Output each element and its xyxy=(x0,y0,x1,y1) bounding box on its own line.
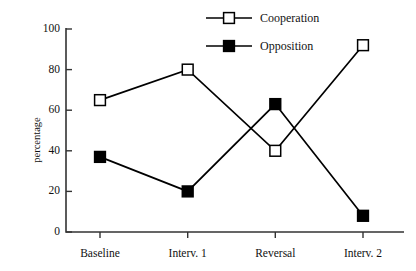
opposition-point-baseline xyxy=(95,152,106,163)
cooperation-point-reversal xyxy=(270,145,281,156)
y-tick-label-80: 80 xyxy=(30,64,60,76)
series-opposition xyxy=(95,99,369,222)
axis-spines xyxy=(66,28,404,232)
plot-area xyxy=(0,0,416,271)
cooperation-point-interv-1 xyxy=(182,64,193,75)
y-tick-label-0: 0 xyxy=(30,226,60,238)
line-chart: percentage 100 80 60 40 20 0 Baseline In… xyxy=(0,0,416,271)
axes xyxy=(66,28,404,238)
y-axis-ticks xyxy=(66,29,72,232)
opposition-point-reversal xyxy=(270,99,281,110)
legend-marker-cooperation xyxy=(224,13,235,24)
legend-marks xyxy=(206,13,252,52)
y-tick-label-60: 60 xyxy=(30,104,60,116)
cooperation-point-interv-2 xyxy=(358,40,369,51)
y-tick-label-40: 40 xyxy=(30,145,60,157)
cooperation-point-baseline xyxy=(95,95,106,106)
y-tick-label-100: 100 xyxy=(30,23,60,35)
opposition-line xyxy=(100,104,363,216)
x-tick-label-interv-2: Interv. 2 xyxy=(344,248,382,260)
legend-label-opposition: Opposition xyxy=(260,39,313,54)
cooperation-line xyxy=(100,45,363,151)
opposition-point-interv-1 xyxy=(182,186,193,197)
legend-label-cooperation: Cooperation xyxy=(260,11,319,26)
x-tick-label-baseline: Baseline xyxy=(80,248,120,260)
opposition-point-interv-2 xyxy=(358,210,369,221)
y-tick-label-20: 20 xyxy=(30,186,60,198)
x-axis-ticks xyxy=(100,232,363,238)
series-cooperation xyxy=(95,40,369,156)
x-tick-label-interv-1: Interv. 1 xyxy=(169,248,207,260)
x-tick-label-reversal: Reversal xyxy=(255,248,295,260)
legend-marker-opposition xyxy=(224,41,235,52)
